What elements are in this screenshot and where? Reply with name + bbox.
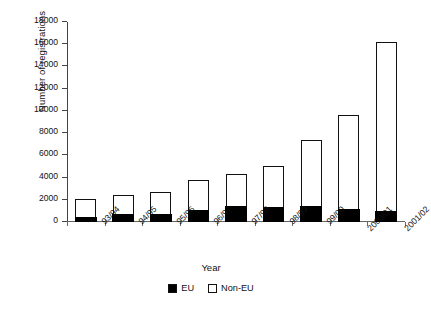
y-tick: 10000 bbox=[62, 110, 67, 111]
y-tick-label: 16000 bbox=[34, 37, 58, 47]
y-tick-label: 4000 bbox=[39, 171, 58, 181]
y-tick-label: 10000 bbox=[34, 104, 58, 114]
y-tick: 2000 bbox=[62, 199, 67, 200]
y-axis-line bbox=[67, 22, 68, 223]
y-tick-label: 2000 bbox=[39, 193, 58, 203]
legend-item-eu: EU bbox=[168, 283, 194, 293]
y-tick: 16000 bbox=[62, 43, 67, 44]
legend-swatch-eu bbox=[168, 284, 177, 293]
y-tick-label: 6000 bbox=[39, 148, 58, 158]
chart-legend: EU Non-EU bbox=[0, 283, 422, 293]
x-tick bbox=[67, 222, 68, 226]
bar-2001-02 bbox=[376, 42, 397, 222]
y-tick: 8000 bbox=[62, 132, 67, 133]
plot-area: 0200040006000800010000120001400016000180… bbox=[67, 22, 405, 222]
legend-item-non-eu: Non-EU bbox=[208, 283, 254, 293]
y-tick-label: 18000 bbox=[34, 15, 58, 25]
bar-segment-eu bbox=[75, 217, 97, 223]
y-tick-label: 14000 bbox=[34, 59, 58, 69]
y-tick: 4000 bbox=[62, 177, 67, 178]
legend-label-eu: EU bbox=[181, 283, 194, 293]
y-tick-label: 0 bbox=[53, 215, 58, 225]
x-axis-title: Year bbox=[0, 262, 422, 273]
y-tick-label: 8000 bbox=[39, 126, 58, 136]
legend-swatch-non-eu bbox=[208, 284, 217, 293]
bar-93-94 bbox=[75, 199, 96, 222]
y-tick: 6000 bbox=[62, 154, 67, 155]
y-tick-label: 12000 bbox=[34, 82, 58, 92]
x-tick-label: 2001/02 bbox=[402, 204, 431, 233]
y-tick: 14000 bbox=[62, 65, 67, 66]
y-tick: 12000 bbox=[62, 88, 67, 89]
y-tick: 18000 bbox=[62, 21, 67, 22]
legend-label-non-eu: Non-EU bbox=[221, 283, 254, 293]
